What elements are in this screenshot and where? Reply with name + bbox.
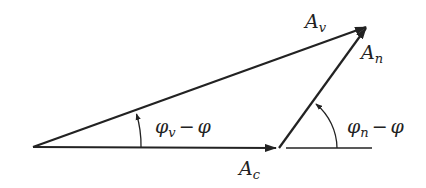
angle-v-sub: v (168, 125, 175, 140)
label-a-n-sub: n (375, 51, 383, 66)
angle-v-rhs: φ (198, 115, 211, 137)
angle-arc-n (316, 104, 337, 148)
angle-n-rhs: φ (391, 115, 404, 137)
label-a-c-sub: c (253, 167, 260, 182)
phasor-diagram (0, 0, 426, 188)
angle-arc-v (137, 114, 142, 147)
label-a-c: Ac (239, 159, 260, 181)
angle-v-minus: − (179, 115, 195, 137)
angle-n-minus: − (372, 115, 388, 137)
label-a-n: An (361, 43, 383, 65)
label-a-v-base: A (305, 10, 319, 32)
angle-n-sub: n (360, 125, 368, 140)
label-angle-n: φn−φ (347, 117, 404, 139)
angle-n-phi: φ (347, 115, 360, 137)
angle-v-phi: φ (155, 115, 168, 137)
label-a-v: Av (305, 12, 326, 34)
label-a-v-sub: v (319, 20, 326, 35)
label-a-c-base: A (239, 157, 253, 179)
vector-a-c (33, 147, 276, 148)
label-angle-v: φv−φ (155, 117, 211, 139)
label-a-n-base: A (361, 41, 375, 63)
